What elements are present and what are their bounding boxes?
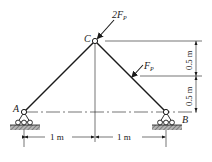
load-label-Fp: FP: [143, 60, 154, 72]
truss-diagram: 2FP FP C A B 1 m 1 m: [0, 0, 212, 162]
load-label-2Fp: 2FP: [112, 9, 127, 21]
hinge-C: [92, 38, 97, 43]
support-B: [152, 109, 182, 130]
node-label-C: C: [84, 33, 91, 44]
node-label-B: B: [182, 114, 188, 125]
dim-label-right: 1 m: [117, 132, 131, 142]
vertical-dimension: 0.5 m 0.5 m: [105, 41, 202, 112]
load-arrow-2Fp: [98, 20, 115, 39]
dim-label-left: 1 m: [50, 132, 64, 142]
dim-label-top: 0.5 m: [184, 50, 194, 70]
node-label-A: A: [12, 103, 20, 114]
member-CB: [95, 41, 166, 112]
dim-label-bottom: 0.5 m: [184, 86, 194, 106]
member-AC: [24, 41, 95, 112]
load-arrow-Fp: [132, 65, 143, 77]
